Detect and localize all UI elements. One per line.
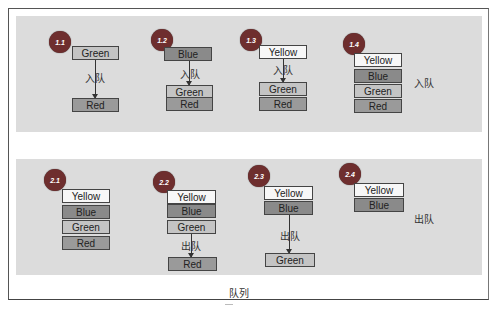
queue-item-red: Red [354, 99, 402, 113]
dequeue-label: 出队 [280, 228, 300, 243]
queue-item-blue: Blue [354, 198, 404, 212]
queue-item-yellow: Yellow [62, 189, 110, 203]
step-badge: 2.3 [248, 165, 270, 187]
queue-item-yellow: Yellow [264, 186, 313, 200]
enqueue-label: 入队 [180, 66, 200, 81]
step-badge: 1.1 [49, 31, 71, 53]
queue-item-red: Red [259, 97, 307, 111]
step-badge: 2.1 [44, 169, 66, 191]
queue-item-red: Red [168, 257, 217, 271]
queue-item-blue: Blue [164, 47, 212, 61]
enqueue-label: 入队 [273, 62, 293, 77]
queue-item-blue: Blue [264, 201, 313, 215]
queue-item-yellow: Yellow [354, 53, 402, 67]
figure-caption: 队列 [229, 285, 249, 300]
enqueue-label: 入队 [85, 70, 105, 85]
queue-item-red: Red [62, 236, 110, 250]
step-badge: 2.4 [339, 163, 361, 185]
enqueue-side-label: 入队 [414, 75, 434, 90]
queue-item-green: Green [354, 84, 402, 98]
queue-item-blue: Blue [167, 204, 216, 218]
queue-item-yellow: Yellow [167, 190, 216, 204]
queue-item-green: Green [167, 220, 216, 234]
queue-item-yellow: Yellow [259, 45, 307, 59]
queue-item-green: Green [62, 220, 110, 234]
queue-item-green: Green [265, 253, 315, 267]
queue-item-green: Green [259, 82, 307, 96]
queue-item-green: Green [72, 46, 119, 60]
queue-item-yellow: Yellow [354, 183, 404, 197]
queue-item-blue: Blue [62, 205, 110, 219]
queue-item-red: Red [166, 97, 213, 111]
dequeue-label: 出队 [181, 238, 201, 253]
step-badge: 1.4 [343, 33, 365, 55]
queue-item-red: Red [72, 98, 119, 112]
dequeue-side-label: 出队 [414, 211, 434, 226]
footnote-mark [225, 304, 233, 305]
queue-item-blue: Blue [354, 69, 402, 83]
